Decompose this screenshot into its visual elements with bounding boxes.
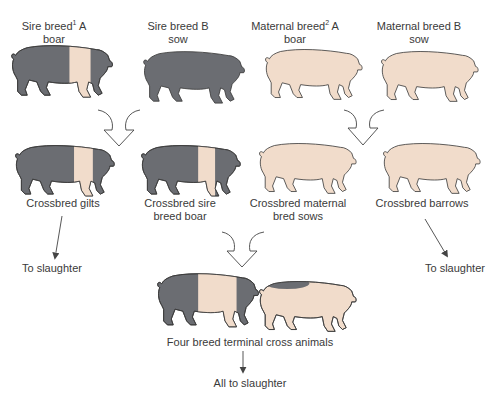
- pig-terminal-belted: [158, 270, 259, 329]
- arrow-gilts-to-slaughter: [55, 216, 62, 258]
- diagram-canvas: [0, 0, 499, 408]
- pig-sire-b-sow-dark: [144, 52, 245, 103]
- merge-arrow-maternal: [344, 110, 384, 145]
- pig-terminal-light-spotted: [260, 278, 357, 331]
- pig-crossbred-gilts-belted: [16, 142, 115, 198]
- merge-arrow-sire: [98, 110, 140, 146]
- arrow-barrows-to-slaughter: [425, 219, 447, 256]
- pig-maternal-a-boar-light: [266, 50, 363, 100]
- pig-crossbred-sire-boar-belted: [142, 142, 241, 198]
- pig-crossbred-barrows-light: [384, 144, 481, 194]
- merge-arrow-terminal: [222, 232, 264, 267]
- pig-maternal-b-sow-light: [382, 52, 479, 102]
- pig-crossbred-maternal-sows-light: [260, 144, 357, 194]
- pig-sire-a-boar-belted: [12, 42, 113, 99]
